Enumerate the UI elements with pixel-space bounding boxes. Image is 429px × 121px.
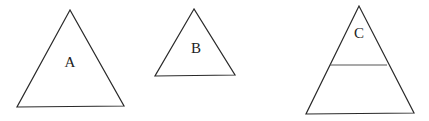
triangle-c-outline [306, 6, 414, 114]
triangle-b: B [155, 9, 235, 76]
triangle-a-label: A [65, 54, 76, 70]
triangle-c-label: C [354, 25, 364, 41]
triangle-b-label: B [191, 40, 201, 56]
triangle-a: A [17, 10, 124, 107]
triangles-diagram: A B C [0, 0, 429, 121]
triangle-c: C [306, 6, 414, 114]
